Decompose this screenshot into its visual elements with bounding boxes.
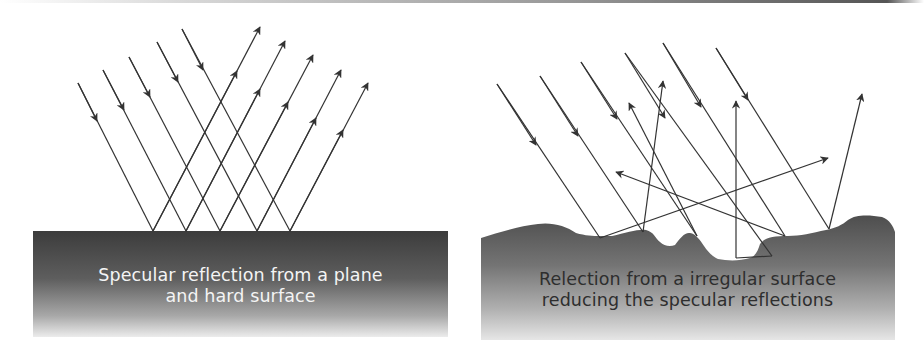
incident-arrowheads-left	[78, 29, 203, 121]
diffuse-caption-line2: reducing the specular reflections	[480, 290, 895, 311]
specular-caption: Specular reflection from a plane and har…	[33, 265, 448, 307]
reflected-rays-left	[153, 27, 368, 231]
diffuse-caption-line1: Relection from a irregular surface	[480, 269, 895, 290]
specular-caption-line2: and hard surface	[33, 286, 448, 307]
incident-rays-left	[78, 29, 290, 231]
diffuse-caption: Relection from a irregular surface reduc…	[480, 269, 895, 311]
specular-caption-line1: Specular reflection from a plane	[33, 265, 448, 286]
